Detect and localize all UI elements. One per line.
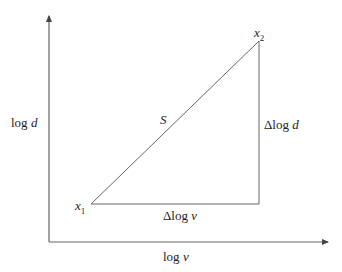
delta-x-var: v	[191, 208, 197, 223]
y-axis-label: log d	[11, 116, 37, 129]
delta-y-prefix: Δlog	[264, 117, 292, 132]
x-label-prefix: log	[163, 249, 183, 264]
x1-sub: 1	[81, 206, 86, 216]
y-label-prefix: log	[11, 115, 31, 130]
point-x2-label: x2	[254, 26, 264, 43]
delta-log-v-label: Δlog v	[163, 209, 197, 222]
diagram-canvas	[0, 0, 342, 272]
hypotenuse-s	[91, 41, 259, 204]
delta-y-var: d	[292, 117, 299, 132]
x-axis-label: log v	[163, 250, 189, 263]
segment-s-label: S	[160, 113, 167, 126]
x-label-var: v	[183, 249, 189, 264]
delta-log-d-label: Δlog d	[264, 118, 299, 131]
x2-sub: 2	[260, 33, 265, 43]
y-label-var: d	[31, 115, 38, 130]
point-x1-label: x1	[75, 199, 85, 216]
delta-x-prefix: Δlog	[163, 208, 191, 223]
